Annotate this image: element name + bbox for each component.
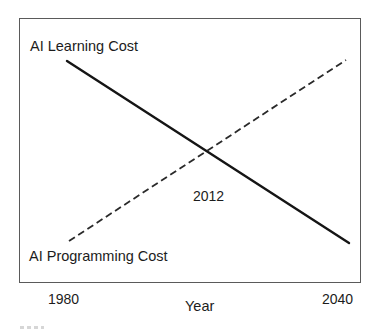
intersection-year-annotation: 2012 — [193, 188, 224, 204]
ai-learning-cost-label: AI Learning Cost — [30, 38, 138, 54]
x-tick-1980: 1980 — [48, 291, 79, 307]
ai-programming-cost-label: AI Programming Cost — [29, 248, 168, 264]
x-axis-title: Year — [185, 298, 214, 314]
x-tick-2040: 2040 — [322, 291, 353, 307]
